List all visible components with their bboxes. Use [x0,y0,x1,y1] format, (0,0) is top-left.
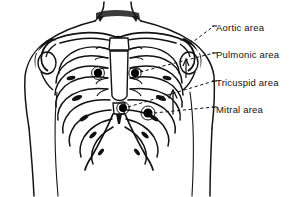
mitral-marker [143,108,152,117]
tricuspid-arrow [169,90,177,114]
neck-base-shading [96,10,140,22]
aortic-leader [190,26,214,44]
pulmonic-marker [131,69,139,77]
aortic-marker [94,69,102,77]
xiphoid-process [116,114,122,124]
aortic-arrow-stub [183,59,189,78]
label-aortic-area: Aortic area [216,23,264,33]
illustration-canvas: Aortic area Pulmonic area Tricuspid area… [0,0,300,197]
label-tricuspid-area: Tricuspid area [216,78,279,88]
label-pulmonic-area: Pulmonic area [216,50,279,60]
tricuspid-marker [119,104,127,112]
left-ribs [55,47,113,164]
label-mitral-area: Mitral area [216,105,263,115]
